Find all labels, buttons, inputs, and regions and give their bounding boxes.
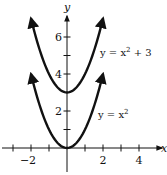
x-axis-label: x [161, 142, 167, 155]
chart: −224246xyy = x2y = x2 + 3 [0, 0, 167, 175]
x-tick-label: 4 [136, 154, 143, 167]
y-tick-label: 2 [55, 105, 62, 118]
axes [2, 16, 162, 172]
y-axis-label: y [63, 1, 71, 14]
curve-label: y = x2 [97, 108, 129, 120]
y-tick-label: 6 [55, 31, 62, 44]
curve-label: y = x2 + 3 [99, 46, 152, 58]
x-tick-label: 2 [100, 154, 107, 167]
labels: −224246xyy = x2y = x2 + 3 [20, 1, 167, 167]
x-tick-label: −2 [20, 154, 36, 167]
y-tick-label: 4 [55, 68, 62, 81]
